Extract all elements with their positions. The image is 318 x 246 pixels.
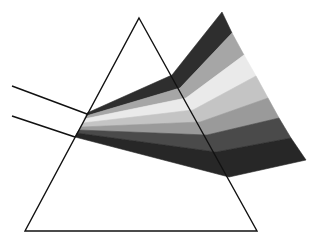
incoming-ray-2 (12, 116, 75, 137)
prism-dispersion-diagram (0, 0, 318, 246)
incoming-ray-1 (12, 86, 87, 114)
spectrum-bands (75, 12, 306, 177)
incoming-light-rays (12, 86, 87, 137)
